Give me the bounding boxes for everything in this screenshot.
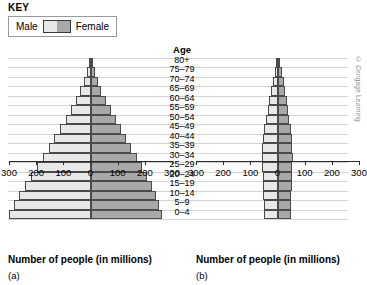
bar-male [49, 143, 91, 152]
bar-male [54, 134, 90, 143]
x-tick-label: 0 [275, 167, 280, 179]
x-tick [172, 161, 173, 165]
pyramid-row [196, 134, 359, 143]
bar-male [25, 181, 91, 190]
bar-female [91, 86, 102, 95]
pyramid-row [9, 124, 172, 133]
bar-female [278, 181, 292, 190]
bar-female [278, 191, 292, 200]
bar-female [278, 115, 290, 124]
pyramid-row [196, 143, 359, 152]
bar-male [264, 124, 277, 133]
x-tick [145, 161, 146, 165]
population-pyramid-a [9, 58, 172, 230]
bar-female [91, 200, 159, 209]
age-axis-column: Age 80+75–7970–7465–6960–6455–5950–5445–… [160, 44, 204, 217]
bar-female [278, 134, 292, 143]
pyramid-row [196, 210, 359, 219]
pyramid-row [196, 200, 359, 209]
age-heading: Age [160, 44, 204, 55]
bar-female [278, 67, 282, 76]
x-tick [250, 161, 251, 165]
bar-female [278, 86, 286, 95]
pyramid-row [9, 200, 172, 209]
pyramid-row [9, 143, 172, 152]
x-axis-ticks-a [9, 161, 172, 166]
bar-female [91, 143, 132, 152]
legend-label-female: Female [76, 21, 109, 32]
x-tick-label: 100 [55, 167, 71, 179]
x-axis-ticks-b [196, 161, 359, 166]
bar-female [278, 96, 287, 105]
x-tick-label: 100 [110, 167, 126, 179]
panel-tag-b: (b) [196, 270, 208, 281]
bar-male [71, 105, 91, 114]
pyramid-row [196, 58, 359, 67]
x-axis-title-a: Number of people (in millions) [8, 254, 152, 266]
bar-male [262, 143, 277, 152]
x-tick-label: 300 [164, 167, 180, 179]
bar-female [91, 77, 98, 86]
legend-box: Male Female [8, 16, 117, 37]
bar-female [278, 124, 291, 133]
bar-male [9, 210, 91, 219]
pyramid-row [196, 191, 359, 200]
bar-male [264, 210, 278, 219]
pyramid-row [9, 96, 172, 105]
pyramid-row [9, 191, 172, 200]
bar-male [268, 105, 278, 114]
bar-male [266, 115, 277, 124]
bar-female [278, 143, 293, 152]
bar-female [278, 200, 292, 209]
pyramid-row [196, 77, 359, 86]
bar-female [278, 210, 291, 219]
age-label: 0–4 [160, 208, 204, 217]
bar-female [91, 210, 162, 219]
bar-female [91, 124, 121, 133]
x-tick [36, 161, 37, 165]
x-tick-label: 200 [28, 167, 44, 179]
bar-male [80, 86, 90, 95]
pyramid-row [196, 105, 359, 114]
pyramid-row [196, 67, 359, 76]
copyright-credit: © Cengage Learning [355, 56, 362, 122]
pyramid-row [196, 115, 359, 124]
x-tick-labels-b: 3002001000100200300 [196, 167, 359, 179]
bar-female [91, 134, 127, 143]
x-tick [63, 161, 64, 165]
bar-male [19, 191, 90, 200]
x-tick [278, 161, 279, 165]
pyramid-row [9, 105, 172, 114]
panel-tag-a: (a) [8, 270, 20, 281]
x-tick-label: 300 [1, 167, 17, 179]
x-tick-label: 200 [137, 167, 153, 179]
x-tick-label: 300 [351, 167, 367, 179]
pyramid-row [9, 115, 172, 124]
pyramid-row [9, 77, 172, 86]
population-pyramid-b [196, 58, 359, 230]
legend-title: KEY [8, 2, 158, 14]
bar-female [91, 105, 111, 114]
bar-male [263, 134, 278, 143]
bar-male [66, 115, 91, 124]
x-tick-label: 100 [297, 167, 313, 179]
x-tick-label: 0 [88, 167, 93, 179]
bar-female [278, 58, 280, 67]
pyramid-row [9, 210, 172, 219]
pyramid-row [9, 86, 172, 95]
x-tick [332, 161, 333, 165]
pyramid-row [9, 181, 172, 190]
pyramid-row [196, 86, 359, 95]
legend-key: KEY Male Female [8, 2, 158, 37]
bar-male [14, 200, 91, 209]
x-tick-labels-a: 3002001000100200300 [9, 167, 172, 179]
pyramid-row [9, 134, 172, 143]
x-tick [9, 161, 10, 165]
bar-male [263, 191, 277, 200]
x-tick [359, 161, 360, 165]
x-tick [305, 161, 306, 165]
age-label-list: 80+75–7970–7465–6960–6455–5950–5445–4940… [160, 56, 204, 217]
bar-female [91, 67, 95, 76]
x-tick [91, 161, 92, 165]
bar-male [76, 96, 91, 105]
